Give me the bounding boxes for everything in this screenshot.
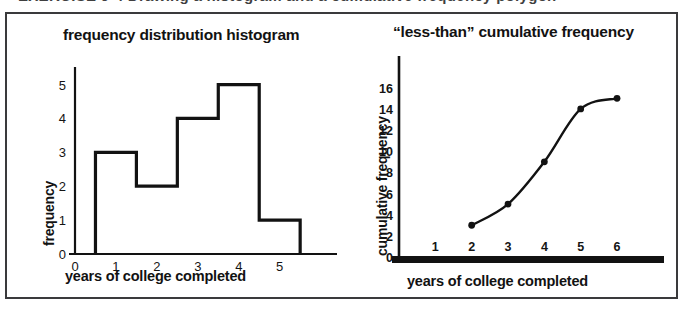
- histogram-y-tick: 0: [59, 247, 66, 262]
- ogive-panel: “less-than” cumulative frequency cumulat…: [357, 14, 677, 297]
- ogive-y-tick: 8: [386, 166, 393, 180]
- ogive-y-tick: 0: [386, 251, 393, 265]
- figure-frame: frequency distribution histogram frequen…: [5, 12, 678, 299]
- histogram-x-tick: 1: [112, 259, 119, 274]
- ogive-y-tick: 4: [386, 209, 393, 223]
- ogive-x-tick: 4: [541, 240, 548, 254]
- ogive-data-point: [541, 158, 548, 165]
- ogive-data-point: [468, 222, 475, 229]
- ogive-y-tick: 6: [386, 188, 393, 202]
- histogram-x-tick: 5: [276, 259, 283, 274]
- ogive-x-tick: 3: [505, 240, 512, 254]
- ogive-x-tick: 2: [468, 240, 475, 254]
- histogram-y-tick: 4: [59, 111, 66, 126]
- ogive-x-tick: 5: [577, 240, 584, 254]
- ogive-data-point: [614, 95, 621, 102]
- histogram-y-tick: 3: [59, 145, 66, 160]
- histogram-y-tick: 5: [59, 78, 66, 93]
- ogive-y-tick: 2: [386, 230, 393, 244]
- histogram-plot: 012345012345: [7, 14, 357, 301]
- histogram-y-tick: 1: [59, 213, 66, 228]
- ogive-x-tick: 1: [432, 240, 439, 254]
- histogram-x-tick: 4: [235, 259, 242, 274]
- histogram-x-tick: 0: [71, 259, 78, 274]
- histogram-x-tick: 2: [153, 259, 160, 274]
- ogive-plot: 0246810121416123456: [357, 14, 677, 301]
- cut-off-caption-text: EXERCISE 9-4 Drawing a histogram and a c…: [18, 0, 557, 4]
- histogram-x-tick: 3: [194, 259, 201, 274]
- ogive-y-tick: 10: [379, 145, 393, 159]
- ogive-data-point: [577, 105, 584, 112]
- ogive-data-point: [505, 201, 512, 208]
- ogive-y-tick: 12: [379, 124, 393, 138]
- cut-off-caption-sliver: EXERCISE 9-4 Drawing a histogram and a c…: [0, 0, 686, 9]
- histogram-y-tick: 2: [59, 179, 66, 194]
- ogive-y-tick: 14: [379, 103, 393, 117]
- histogram-bars-outline: [95, 85, 300, 254]
- ogive-y-tick: 16: [379, 82, 393, 96]
- ogive-x-tick: 6: [614, 240, 621, 254]
- histogram-panel: frequency distribution histogram frequen…: [7, 14, 357, 297]
